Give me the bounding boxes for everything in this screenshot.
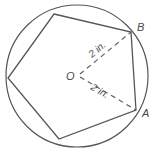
vertex-label-b: B bbox=[137, 21, 144, 33]
circumscribed-circle bbox=[6, 5, 148, 147]
radius-label-b: 2 in. bbox=[85, 39, 107, 60]
diagram-canvas: O B A 2 in. 2 in. bbox=[0, 0, 152, 149]
pentagon-diagram: O B A 2 in. 2 in. bbox=[0, 0, 152, 149]
vertex-label-a: A bbox=[141, 107, 149, 119]
center-label: O bbox=[66, 70, 75, 82]
